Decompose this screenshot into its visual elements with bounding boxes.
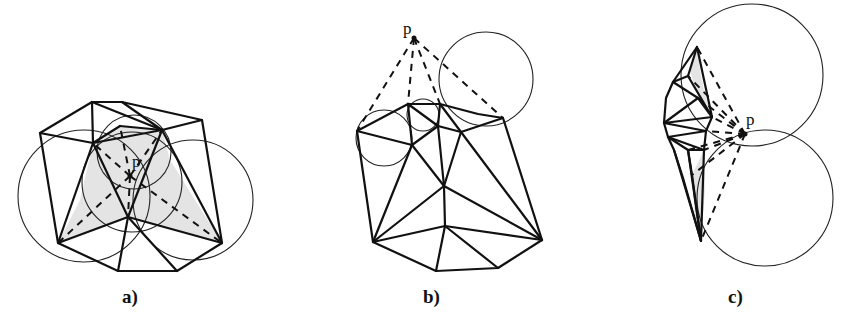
panel-b-caption: b) — [423, 286, 440, 308]
panel-a-point-p-marker — [128, 174, 133, 179]
panel-b-dashed-edges-to-p — [357, 38, 503, 131]
panel-b-point-p-marker — [412, 36, 417, 41]
panel-b-circumcircle-right — [439, 32, 533, 126]
figure-canvas: p — [0, 0, 841, 321]
panel-a-point-p-label: p — [132, 152, 141, 171]
panel-b-point-p-label: p — [403, 19, 412, 38]
panel-c-diagram: p — [664, 4, 833, 266]
panel-a-diagram: p — [18, 102, 253, 271]
panel-c-caption: c) — [728, 286, 743, 308]
panel-a-caption: a) — [122, 286, 138, 308]
panel-b-triangulation-edges — [357, 104, 542, 271]
panel-b-diagram: p — [356, 19, 542, 271]
panel-c-circumcircle-lower — [697, 130, 833, 266]
panel-c-point-p-label: p — [746, 110, 755, 129]
panel-c-point-p-marker — [743, 132, 748, 137]
